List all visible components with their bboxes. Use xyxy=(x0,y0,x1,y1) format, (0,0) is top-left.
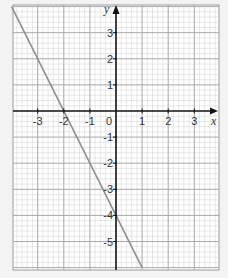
y-axis-label: y xyxy=(103,2,110,16)
y-tick-label: -3 xyxy=(103,183,113,195)
x-tick-label: 1 xyxy=(139,115,145,127)
x-tick-label: 0 xyxy=(106,115,112,127)
y-tick-label: 3 xyxy=(107,27,113,39)
x-tick-label: -3 xyxy=(33,115,43,127)
x-tick-label: 2 xyxy=(165,115,171,127)
x-tick-label: 3 xyxy=(191,115,197,127)
y-tick-label: -1 xyxy=(103,131,113,143)
x-axis-label: x xyxy=(210,114,217,128)
x-tick-label: -1 xyxy=(85,115,95,127)
x-tick-label: -2 xyxy=(59,115,69,127)
y-tick-label: 1 xyxy=(107,79,113,91)
coordinate-plane: -3-2-10123321-1-2-3-4-5 x y xyxy=(0,0,228,278)
y-tick-label: 2 xyxy=(107,53,113,65)
y-tick-label: -5 xyxy=(103,236,113,248)
y-tick-label: -4 xyxy=(103,209,113,221)
y-tick-label: -2 xyxy=(103,157,113,169)
